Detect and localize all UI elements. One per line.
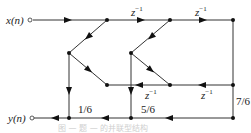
node	[105, 18, 109, 22]
node	[231, 116, 235, 120]
gain-label-3: 7/6	[236, 96, 250, 107]
input-terminal	[28, 18, 32, 22]
gain-label-1: 1/6	[78, 104, 92, 115]
node	[129, 51, 133, 55]
node	[105, 83, 109, 87]
flow-graph-lines	[0, 0, 251, 133]
input-label: x(n)	[6, 15, 24, 26]
output-terminal	[30, 116, 34, 120]
node	[231, 18, 235, 22]
delay-label-top-1: z−1	[131, 6, 143, 18]
signal-flow-diagram: x(n) y(n) z−1 z−1 z−1 z−1 1/6 5/6 7/6 图 …	[0, 0, 251, 133]
node	[168, 83, 172, 87]
node	[231, 83, 235, 87]
figure-caption: 图 — 题 — 的并联型结构	[58, 122, 148, 133]
delay-label-mid-2: z−1	[201, 89, 213, 101]
node	[67, 51, 71, 55]
node	[129, 116, 133, 120]
node	[168, 18, 172, 22]
node	[67, 116, 71, 120]
delay-label-top-2: z−1	[195, 6, 207, 18]
delay-label-mid-1: z−1	[145, 89, 157, 101]
output-label: y(n)	[8, 113, 26, 124]
gain-label-2: 5/6	[141, 104, 155, 115]
